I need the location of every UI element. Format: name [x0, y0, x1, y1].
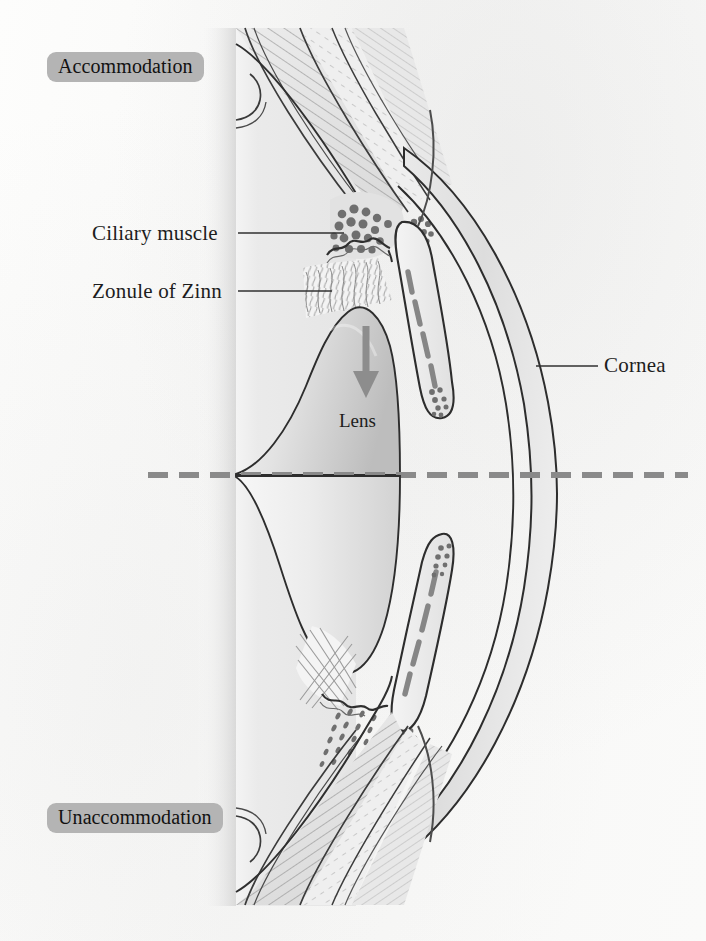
label-cornea: Cornea	[604, 353, 666, 378]
label-zonule-of-zinn: Zonule of Zinn	[92, 279, 222, 304]
badge-unaccommodation-label: Unaccommodation	[47, 803, 223, 833]
eye-anatomy-illustration	[0, 0, 706, 941]
label-ciliary-muscle: Ciliary muscle	[92, 221, 218, 246]
badge-unaccommodation: Unaccommodation	[47, 803, 223, 833]
figure-page: Accommodation Unaccommodation Ciliary mu…	[0, 0, 706, 941]
badge-accommodation-label: Accommodation	[47, 52, 204, 82]
badge-accommodation: Accommodation	[47, 52, 204, 82]
label-lens: Lens	[339, 410, 376, 432]
